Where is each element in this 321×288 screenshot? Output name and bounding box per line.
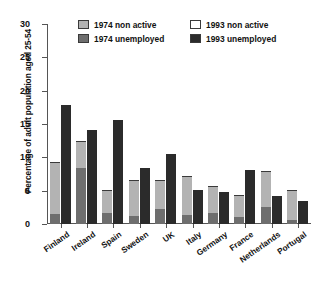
segment-1993-non-active	[298, 160, 308, 201]
bar-chart: Percentage of adult population aged 25-5…	[0, 0, 321, 288]
segment-1993-non-active	[113, 72, 123, 121]
y-axis-tick-label: 30	[0, 19, 30, 29]
x-axis-tick	[193, 224, 194, 228]
bar-1974-netherlands	[261, 172, 271, 224]
x-axis-label-ireland: Ireland	[70, 230, 97, 253]
legend-entry-1993-unemployed: 1993 unemployed	[190, 34, 302, 44]
legend-label: 1974 non active	[94, 20, 156, 30]
x-axis-tick	[298, 224, 299, 228]
segment-1974-non-active	[261, 171, 271, 207]
segment-1974-unemployed	[287, 220, 297, 224]
legend-row: 1974 non active 1993 non active	[78, 18, 303, 31]
bar-1993-ireland	[87, 71, 97, 224]
bar-1993-portugal	[298, 161, 308, 224]
y-axis-tick-label: 15	[0, 119, 30, 129]
segment-1993-non-active	[61, 45, 71, 105]
x-axis-tick	[272, 224, 273, 228]
bar-1974-sweden	[129, 181, 139, 224]
legend-row: 1974 unemployed 1993 unemployed	[78, 32, 303, 45]
segment-1993-unemployed	[113, 120, 123, 224]
segment-1993-non-active	[245, 136, 255, 170]
y-axis-tick	[42, 191, 47, 192]
segment-1974-non-active	[155, 180, 165, 209]
segment-1974-unemployed	[261, 207, 271, 224]
legend-label: 1993 non active	[206, 20, 268, 30]
bar-1993-germany	[219, 127, 229, 224]
bar-1974-france	[234, 196, 244, 224]
segment-1993-non-active	[140, 110, 150, 168]
y-axis-tick-label: 0	[0, 219, 30, 229]
segment-1993-unemployed	[140, 168, 150, 224]
x-axis-tick	[219, 224, 220, 228]
x-axis-label-sweden: Sweden	[119, 230, 150, 255]
segment-1993-unemployed	[87, 130, 97, 224]
y-axis-title: Percentage of adult population aged 25-5…	[23, 7, 33, 215]
segment-1974-non-active	[287, 190, 297, 220]
bar-1993-uk	[166, 111, 176, 224]
segment-1974-non-active	[208, 186, 218, 213]
segment-1993-non-active	[87, 70, 97, 129]
white-swatch-icon	[190, 20, 201, 29]
segment-1974-non-active	[76, 141, 86, 168]
x-axis-label-portugal: Portugal	[276, 230, 308, 256]
bar-1974-germany	[208, 187, 218, 224]
segment-1974-unemployed	[76, 168, 86, 224]
x-axis-tick	[87, 224, 88, 228]
medium-gray-swatch-icon	[78, 34, 89, 43]
segment-1974-non-active	[129, 180, 139, 216]
chart-legend: 1974 non active 1993 non active 1974 une…	[78, 18, 303, 46]
bar-1993-netherlands	[272, 153, 282, 224]
bar-1993-sweden	[140, 111, 150, 224]
y-axis-tick-label: 5	[0, 186, 30, 196]
y-axis-tick	[42, 57, 47, 58]
segment-1993-unemployed	[166, 154, 176, 224]
y-axis-tick	[42, 224, 47, 225]
bar-1974-portugal	[287, 191, 297, 224]
x-axis-tick	[61, 224, 62, 228]
x-axis-label-finland: Finland	[42, 230, 71, 254]
y-axis-tick-label: 25	[0, 52, 30, 62]
bar-1974-ireland	[76, 142, 86, 224]
y-axis-tick	[42, 124, 47, 125]
y-axis-line	[47, 24, 48, 224]
segment-1974-unemployed	[102, 213, 112, 224]
y-axis-tick-label: 20	[0, 86, 30, 96]
segment-1974-non-active	[102, 190, 112, 213]
light-gray-swatch-icon	[78, 20, 89, 29]
bar-1993-finland	[61, 46, 71, 224]
segment-1993-unemployed	[272, 196, 282, 224]
segment-1974-non-active	[182, 176, 192, 215]
bar-1974-uk	[155, 181, 165, 224]
segment-1993-unemployed	[298, 201, 308, 224]
segment-1974-unemployed	[129, 216, 139, 224]
bar-1993-italy	[193, 117, 203, 224]
bar-1974-finland	[50, 163, 60, 224]
segment-1993-unemployed	[219, 192, 229, 224]
segment-1974-unemployed	[182, 215, 192, 224]
x-axis-tick	[113, 224, 114, 228]
segment-1974-non-active	[50, 162, 60, 213]
segment-1974-unemployed	[234, 217, 244, 224]
segment-1993-unemployed	[61, 105, 71, 224]
legend-label: 1993 unemployed	[206, 34, 276, 44]
legend-entry-1974-unemployed: 1974 unemployed	[78, 34, 190, 44]
legend-entry-1993-non-active: 1993 non active	[190, 20, 302, 30]
segment-1974-non-active	[234, 195, 244, 217]
segment-1993-unemployed	[193, 190, 203, 224]
y-axis-tick	[42, 24, 47, 25]
segment-1993-unemployed	[245, 170, 255, 224]
x-axis-label-uk: UK	[161, 230, 176, 244]
x-axis-label-italy: Italy	[184, 230, 203, 247]
legend-entry-1974-non-active: 1974 non active	[78, 20, 190, 30]
segment-1974-unemployed	[208, 213, 218, 224]
x-axis-tick	[245, 224, 246, 228]
black-swatch-icon	[190, 34, 201, 43]
segment-1993-non-active	[272, 152, 282, 195]
bar-1974-italy	[182, 177, 192, 224]
segment-1993-non-active	[219, 126, 229, 193]
bar-1993-france	[245, 137, 255, 224]
y-axis-tick	[42, 91, 47, 92]
x-axis-tick	[166, 224, 167, 228]
segment-1993-non-active	[193, 116, 203, 190]
legend-label: 1974 unemployed	[94, 34, 164, 44]
